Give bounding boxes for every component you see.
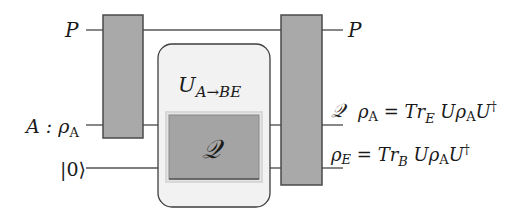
left-unitary-gate (103, 15, 143, 138)
eq-e-u-sub: A (438, 152, 449, 167)
eq-e-rho: ρ (330, 144, 342, 165)
output-label-p: P (347, 18, 362, 42)
eq-a-trace-sub: E (424, 111, 435, 126)
eq-e-u-rho: Uρ (408, 144, 440, 165)
eq-a-u-sub: A (465, 109, 476, 124)
input-label-a: A : ρA (24, 115, 79, 140)
eq-a-dagger: † (491, 100, 497, 114)
eq-e-equals: = (351, 144, 378, 165)
eq-a-trace: Tr (405, 101, 427, 122)
input-label-a-sub: A (68, 125, 79, 140)
eq-a-rho: ρ (357, 101, 369, 122)
eq-e-dagger: † (464, 143, 470, 157)
input-label-p: P (64, 18, 79, 42)
eq-a-u-rho: Uρ (435, 101, 467, 122)
channel-box-title-sub: A→BE (194, 83, 241, 101)
input-label-a-main: A : ρ (24, 115, 70, 137)
eq-a-u-end: U (476, 101, 492, 122)
eq-a-equals: = (378, 101, 405, 122)
circuit-diagram: P A : ρA |0⟩ UA→BE 𝒬 P 𝒬 ρA = TrE UρAU† … (0, 0, 530, 221)
rho-e-equation: ρE = TrB UρAU† (330, 143, 470, 169)
eq-e-trace: Tr (378, 144, 400, 165)
right-unitary-gate (281, 15, 322, 185)
eq-e-trace-sub: B (397, 154, 408, 169)
eq-e-u-end: U (449, 144, 465, 165)
channel-box-title-main: U (178, 73, 197, 97)
rho-a-equation: ρA = TrE UρAU† (357, 100, 497, 126)
output-label-q: 𝒬 (331, 99, 348, 121)
eq-e-rho-sub: E (341, 152, 352, 167)
ancilla-label: |0⟩ (60, 158, 86, 181)
eq-a-rho-sub: A (368, 109, 379, 124)
